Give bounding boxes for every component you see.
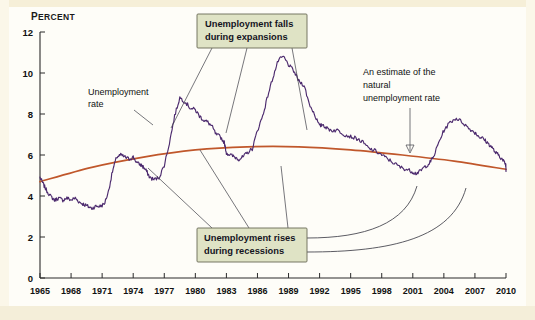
callout-recessions-leader-5 xyxy=(307,188,466,252)
y-tick-label-2: 2 xyxy=(28,232,33,243)
x-tick-label-1977: 1977 xyxy=(154,286,174,296)
x-tick-label-2001: 2001 xyxy=(403,286,423,296)
callout-recessions-leader-1 xyxy=(148,168,212,228)
x-axis: 1965196819711974197719801983198619891992… xyxy=(30,273,516,296)
unemployment-rate-label-line1: Unemployment xyxy=(88,87,149,97)
x-tick-label-1968: 1968 xyxy=(61,286,81,296)
unemployment-chart: 024681012 196519681971197419771980198319… xyxy=(0,0,535,320)
y-tick-label-12: 12 xyxy=(22,27,33,38)
callout-expansions-leader-3 xyxy=(292,48,307,130)
x-tick-label-1980: 1980 xyxy=(185,286,205,296)
x-tick-label-1965: 1965 xyxy=(30,286,50,296)
callout-expansions-leader-1 xyxy=(171,48,212,128)
callout-recessions-line2: during recessions xyxy=(204,246,284,256)
callout-recessions-leader-4 xyxy=(307,186,417,238)
callout-recessions-line1: Unemployment rises xyxy=(204,233,295,243)
x-tick-label-2010: 2010 xyxy=(496,286,516,296)
y-tick-label-0: 0 xyxy=(28,273,33,284)
x-tick-label-1986: 1986 xyxy=(247,286,267,296)
y-tick-label-4: 4 xyxy=(28,191,34,202)
x-tick-label-2007: 2007 xyxy=(465,286,485,296)
y-tick-label-6: 6 xyxy=(28,150,33,161)
callout-expansions: Unemployment falls during expansions xyxy=(171,14,307,133)
natural-rate-label-line3: unemployment rate xyxy=(363,93,440,103)
callout-recessions-leader-2 xyxy=(200,150,249,228)
callout-recessions-leader-3 xyxy=(281,166,288,228)
natural-rate-label-line1: An estimate of the xyxy=(363,67,436,77)
annotation-natural-rate: An estimate of the natural unemployment … xyxy=(363,67,440,153)
annotation-unemployment-rate: Unemployment rate xyxy=(88,87,153,125)
y-tick-label-8: 8 xyxy=(28,109,33,120)
unemployment-rate-line xyxy=(40,56,506,209)
natural-rate-line xyxy=(40,146,506,181)
unemployment-rate-label-line2: rate xyxy=(88,99,104,109)
x-tick-label-1974: 1974 xyxy=(123,286,143,296)
y-axis-title: PERCENT xyxy=(31,11,76,22)
natural-rate-label-line2: natural xyxy=(363,80,391,90)
callout-expansions-line1: Unemployment falls xyxy=(205,19,293,29)
x-tick-label-1971: 1971 xyxy=(92,286,112,296)
x-tick-label-1983: 1983 xyxy=(216,286,236,296)
x-tick-label-2004: 2004 xyxy=(434,286,454,296)
x-tick-label-1998: 1998 xyxy=(372,286,392,296)
callout-expansions-leader-2 xyxy=(226,48,247,133)
x-tick-label-1989: 1989 xyxy=(279,286,299,296)
callout-expansions-line2: during expansions xyxy=(205,32,288,42)
unemployment-rate-leader xyxy=(134,110,153,125)
y-axis: 024681012 xyxy=(22,27,45,284)
figure-root: 024681012 196519681971197419771980198319… xyxy=(0,0,535,320)
y-tick-label-10: 10 xyxy=(22,68,33,79)
x-tick-label-1992: 1992 xyxy=(310,286,330,296)
x-tick-label-1995: 1995 xyxy=(341,286,361,296)
callout-recessions: Unemployment rises during recessions xyxy=(148,150,466,262)
